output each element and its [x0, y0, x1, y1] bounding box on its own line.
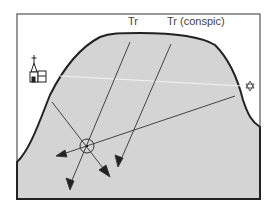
- chart-diagram: [0, 0, 275, 213]
- label-tr: Tr: [128, 15, 138, 27]
- label-tr-conspic: Tr (conspic): [167, 15, 225, 27]
